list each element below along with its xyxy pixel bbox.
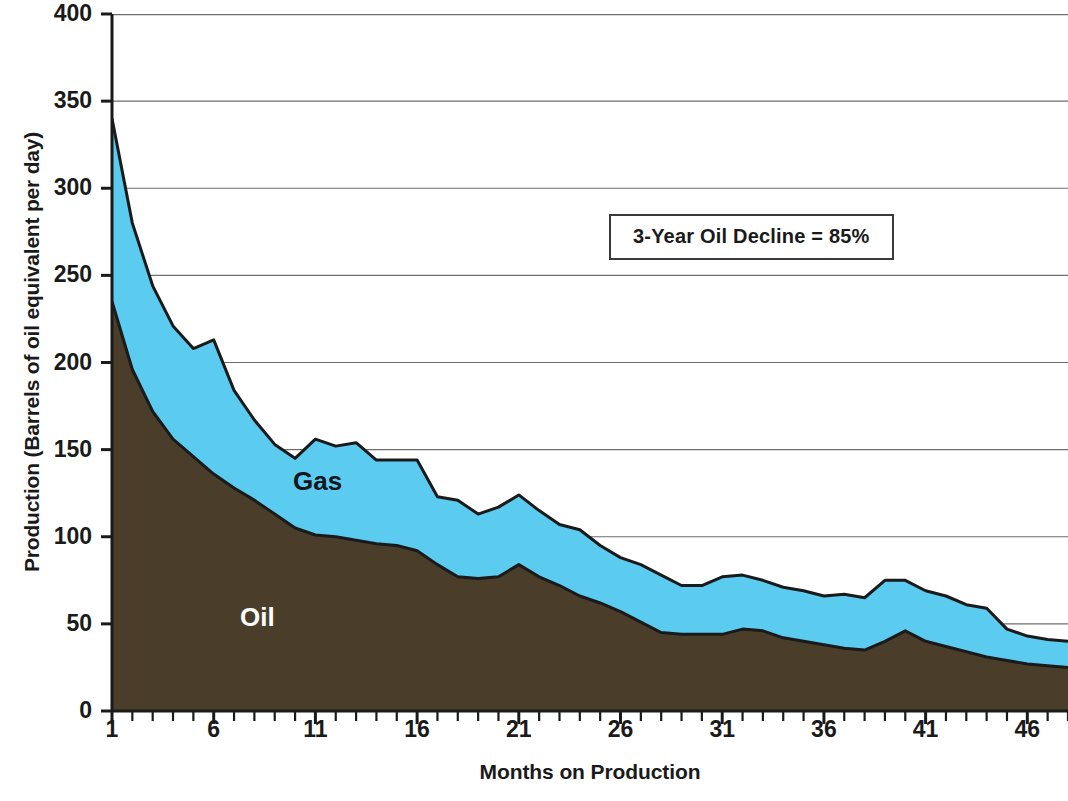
y-tick-label: 150 — [24, 438, 92, 461]
x-tick-label: 31 — [709, 718, 735, 741]
y-tick-label: 350 — [24, 89, 92, 112]
y-tick-label: 250 — [24, 263, 92, 286]
y-tick-label: 0 — [24, 699, 92, 722]
series-label-oil: Oil — [240, 602, 275, 633]
x-tick-label: 21 — [506, 718, 532, 741]
y-tick-label: 100 — [24, 525, 92, 548]
y-axis-tick-labels: 050100150200250300350400 — [20, 0, 92, 801]
annotation-oil-decline: 3-Year Oil Decline = 85% — [609, 214, 894, 260]
x-tick-label: 6 — [207, 718, 220, 741]
x-tick-label: 46 — [1015, 718, 1041, 741]
x-tick-label: 36 — [811, 718, 837, 741]
y-tick-label: 300 — [24, 176, 92, 199]
x-tick-label: 16 — [404, 718, 430, 741]
y-tick-label: 200 — [24, 351, 92, 374]
x-tick-label: 1 — [106, 718, 119, 741]
x-tick-label: 26 — [608, 718, 634, 741]
x-axis-title: Months on Production — [112, 760, 1068, 784]
x-axis-tick-labels: 161116212631364146 — [112, 718, 1068, 754]
y-tick-label: 50 — [24, 612, 92, 635]
x-tick-label: 41 — [913, 718, 939, 741]
series-label-gas: Gas — [293, 466, 342, 497]
x-tick-label: 11 — [303, 718, 327, 741]
y-tick-label: 400 — [24, 2, 92, 25]
chart-canvas: Production (Barrels of oil equivalent pe… — [0, 0, 1068, 801]
